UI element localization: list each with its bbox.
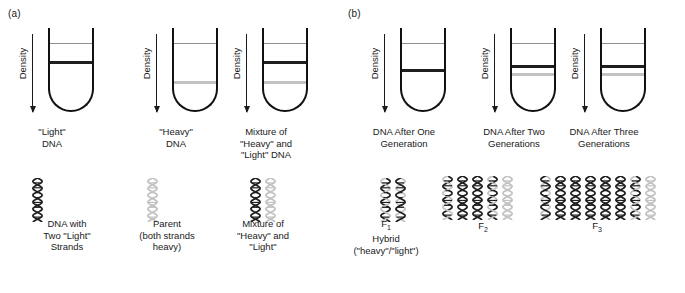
helix-cluster [378,178,408,222]
dna-helix-icon [485,176,500,220]
density-arrow-icon [384,34,385,112]
dna-band-meniscus [512,43,554,44]
helix-caption-line: heavy) [112,241,222,253]
dna-helix-icon [500,176,515,220]
dna-band-meniscus [264,43,306,44]
generation-subscript: 1 [387,224,391,231]
tube-bottom [48,68,94,112]
helix-cluster [30,178,45,222]
density-axis-label: Density [369,34,380,94]
density-axis-label: Density [231,34,242,94]
dna-helix-icon [378,178,393,222]
tube-caption: Mixture of"Heavy" and"Light" DNA [212,126,320,161]
tube-caption-line: DNA [0,138,106,150]
helix-caption-line: Strands [12,241,122,253]
density-axis: Density [222,32,256,118]
centrifuge-tube [400,28,446,120]
dna-helix-icon [598,176,613,220]
dna-helix-icon [553,176,568,220]
helix-cluster [145,178,160,222]
dna-helix-icon [263,178,278,222]
tube-caption-line: "Light" [0,126,106,138]
helix-cluster [440,176,515,220]
density-arrow-icon [494,34,495,112]
dna-helix-icon [583,176,598,220]
dna-band-dark [50,61,92,64]
dna-helix-icon [440,176,455,220]
dna-helix-icon [393,178,408,222]
helix-caption: DNA withTwo "Light"Strands [12,218,122,253]
helix-caption: Parent(both strandsheavy) [112,218,222,253]
helix-caption-line: F2 [428,220,538,235]
centrifuge-tube [600,28,646,120]
dna-helix-icon [470,176,485,220]
dna-helix-icon [643,176,658,220]
centrifuge-tube [172,28,218,120]
density-axis: Density [8,32,42,118]
density-axis: Density [560,32,594,118]
density-axis: Density [470,32,504,118]
dna-band-light [602,73,644,76]
helix-caption: F2 [428,220,538,235]
density-axis-label: Density [479,34,490,94]
dna-helix-icon [145,178,160,222]
tube-bottom [172,68,218,112]
meselson-stahl-figure: (a) (b) Density"Light"DNADensity"Heavy"D… [0,0,685,293]
tube-caption-line: DNA After One [350,126,458,138]
dna-band-dark [264,61,306,64]
tube-caption: DNA After OneGeneration [350,126,458,149]
helix-caption-line: F3 [542,220,652,235]
generation-subscript: 2 [484,226,488,233]
dna-band-meniscus [174,43,216,44]
helix-caption: Mixture of"Heavy" and"Light" [208,218,318,253]
helix-caption-line: Mixture of [208,218,318,230]
density-arrow-icon [584,34,585,112]
tube-caption-line: Generation [350,138,458,150]
helix-cluster [248,178,278,222]
tube-caption-line: DNA After Three [550,126,658,138]
dna-helix-icon [30,178,45,222]
helix-caption-line: Parent [112,218,222,230]
density-axis-label: Density [569,34,580,94]
dna-helix-icon [455,176,470,220]
dna-helix-icon [538,176,553,220]
density-axis: Density [360,32,394,118]
dna-band-light [264,81,306,84]
helix-caption: F3 [542,220,652,235]
tube-caption-line: "Heavy" and [212,138,320,150]
density-arrow-icon [156,34,157,112]
tube-caption: DNA After ThreeGenerations [550,126,658,149]
generation-subscript: 3 [598,226,602,233]
tube-caption-line: Generations [550,138,658,150]
density-axis: Density [132,32,166,118]
dna-band-meniscus [402,43,444,44]
tube-caption-line: Mixture of [212,126,320,138]
helix-caption-line: "Heavy" and [208,230,318,242]
helix-caption-line: ("heavy"/"light") [326,245,446,257]
dna-helix-icon [568,176,583,220]
helix-caption-line: DNA with [12,218,122,230]
density-axis-label: Density [17,34,28,94]
helix-caption-line: (both strands [112,230,222,242]
dna-helix-icon [613,176,628,220]
density-arrow-icon [246,34,247,112]
tube-caption: "Light"DNA [0,126,106,149]
dna-helix-icon [628,176,643,220]
centrifuge-tube [262,28,308,120]
density-arrow-icon [32,34,33,112]
centrifuge-tube [510,28,556,120]
helix-caption-line: "Light" [208,241,318,253]
panel-label-a: (a) [8,8,21,19]
tube-bottom [262,68,308,112]
tube-bottom [400,68,446,112]
centrifuge-tube [48,28,94,120]
dna-band-light [512,73,554,76]
dna-band-meniscus [602,43,644,44]
dna-band-light [174,81,216,84]
panel-label-b: (b) [348,8,361,19]
helix-cluster [538,176,658,220]
dna-band-dark [602,65,644,68]
dna-helix-icon [248,178,263,222]
dna-band-dark [512,65,554,68]
tube-caption-line: "Light" DNA [212,149,320,161]
